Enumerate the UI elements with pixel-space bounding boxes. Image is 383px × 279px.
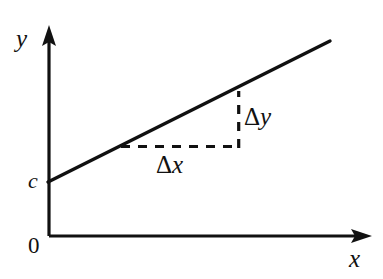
- delta-symbol-y-icon: Δ: [244, 103, 260, 130]
- y-intercept-label: c: [28, 170, 38, 192]
- delta-x-label: Δx: [156, 152, 183, 177]
- delta-y-variable: y: [260, 103, 271, 130]
- origin-label: 0: [28, 234, 40, 257]
- delta-y-label: Δy: [244, 104, 271, 129]
- diagram-canvas: [0, 0, 383, 279]
- delta-symbol-x-icon: Δ: [156, 151, 172, 178]
- y-axis-label: y: [16, 26, 27, 51]
- plotted-line: [48, 41, 330, 182]
- linear-function-diagram: y x c 0 Δy Δx: [0, 0, 383, 279]
- x-axis-label: x: [349, 246, 360, 271]
- delta-x-variable: x: [172, 151, 183, 178]
